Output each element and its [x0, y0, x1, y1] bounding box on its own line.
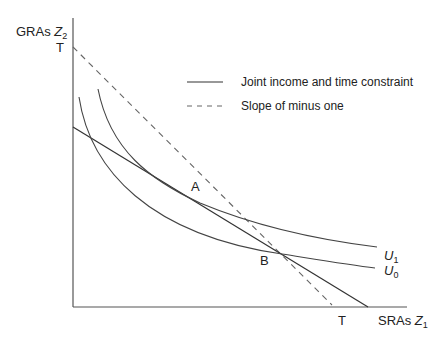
y-axis-label: GRAs Z2: [16, 25, 67, 41]
x-axis-label-text: SRAs: [378, 313, 411, 328]
u0-curve: [79, 97, 375, 268]
u1-var: U: [384, 248, 393, 263]
y-axis-label-text: GRAs: [16, 24, 51, 39]
joint-constraint-line: [73, 127, 368, 307]
x-axis-var: Z: [415, 313, 423, 328]
u0-label: U0: [384, 264, 398, 280]
u0-sub: 0: [393, 270, 398, 280]
y-intercept-label: T: [56, 41, 64, 54]
u0-var: U: [384, 263, 393, 278]
point-b-label: B: [260, 254, 269, 267]
diagram-canvas: [0, 0, 443, 345]
point-a-label: A: [191, 180, 200, 193]
legend-dashed-label: Slope of minus one: [241, 100, 344, 112]
x-axis-sub: 1: [423, 320, 428, 330]
x-axis-label: SRAs Z1: [378, 314, 428, 330]
x-intercept-label: T: [338, 314, 346, 327]
legend-solid-label: Joint income and time constraint: [241, 76, 413, 88]
